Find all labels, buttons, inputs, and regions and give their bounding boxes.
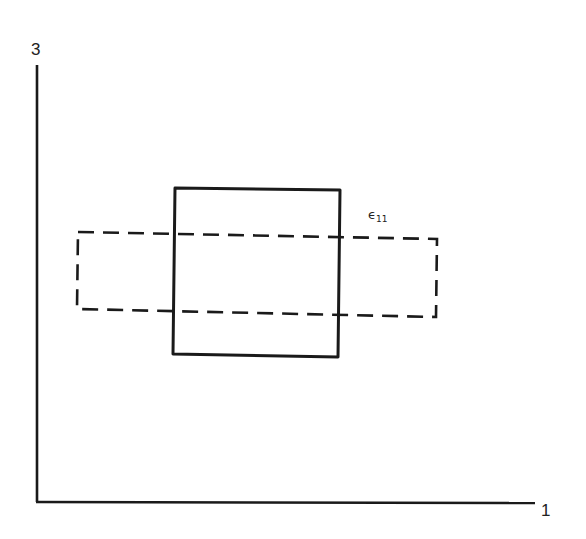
original-element-square	[173, 188, 340, 357]
epsilon-subscript: 11	[376, 214, 387, 224]
horizontal-axis-1	[36, 502, 535, 503]
epsilon-symbol: ϵ	[368, 207, 376, 222]
axis-label-3: 3	[31, 40, 40, 59]
strain-diagram: 3 1 ϵ11	[0, 0, 586, 539]
strain-label-epsilon-11: ϵ11	[368, 207, 387, 224]
axis-label-1: 1	[541, 501, 550, 520]
deformed-element-rectangle	[77, 232, 437, 317]
